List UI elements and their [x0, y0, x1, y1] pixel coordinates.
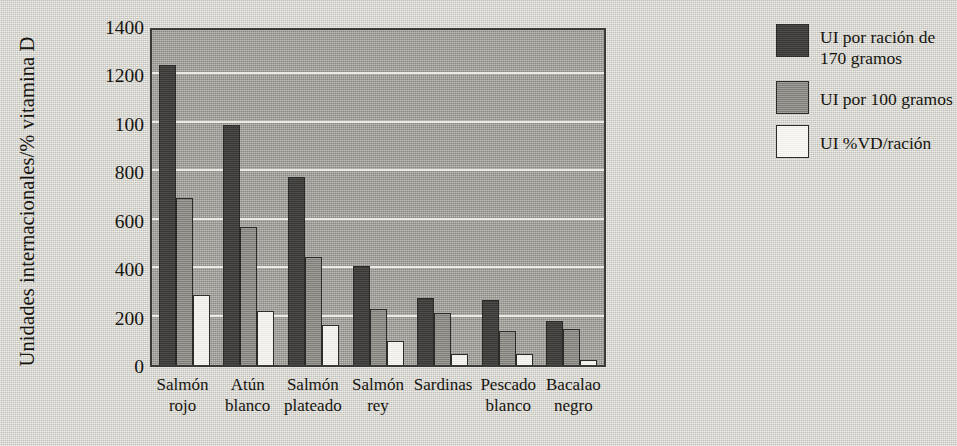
bar	[546, 321, 563, 365]
y-tick-label: 100	[48, 115, 144, 135]
vitamin-d-bar-chart: Unidades internacionales/% vitamina D 14…	[0, 0, 957, 446]
bar	[159, 65, 176, 365]
bar	[563, 329, 580, 365]
bar-group	[410, 30, 475, 365]
bar-group	[217, 30, 282, 365]
legend-swatch	[776, 24, 809, 57]
bar	[417, 298, 434, 365]
x-category-label-line1: Atún	[231, 375, 265, 394]
legend-label-line2: 170 gramos	[820, 48, 935, 69]
legend-label: UI %VD/ración	[820, 125, 931, 154]
x-category-label: Salmónplateado	[280, 374, 345, 417]
x-category-label-line2: blanco	[476, 395, 541, 416]
bar	[451, 354, 468, 365]
legend-label-line1: UI por ración de	[820, 27, 935, 48]
bar-group	[346, 30, 411, 365]
x-category-label-line1: Pescado	[480, 375, 536, 394]
bar	[288, 177, 305, 365]
y-tick-label: 1400	[48, 18, 144, 38]
x-category-label-line1: Sardinas	[414, 375, 473, 394]
bar	[305, 257, 322, 365]
bar	[499, 331, 516, 365]
legend-item: UI por ración de170 gramos	[776, 24, 954, 70]
x-category-label: Sardinas	[411, 374, 476, 417]
x-category-label-line2: negro	[541, 395, 606, 416]
bar	[580, 360, 597, 365]
x-category-label-line1: Salmón	[157, 375, 209, 394]
x-axis-category-labels: SalmónrojoAtúnblancoSalmónplateadoSalmón…	[150, 374, 606, 417]
plot-area	[150, 28, 606, 367]
bar-group	[152, 30, 217, 365]
bar	[257, 311, 274, 365]
y-tick-label: 1200	[48, 67, 144, 87]
x-category-label: Bacalaonegro	[541, 374, 606, 417]
bar	[193, 295, 210, 365]
x-category-label-line2: blanco	[215, 395, 280, 416]
bar	[223, 125, 240, 365]
x-category-label: Salmónrey	[345, 374, 410, 417]
x-category-label-line1: Bacalao	[546, 375, 601, 394]
legend-item: UI por 100 gramos	[776, 81, 954, 114]
x-category-label-line1: Salmón	[352, 375, 404, 394]
x-category-label-line2: rojo	[150, 395, 215, 416]
legend-swatch	[776, 81, 809, 114]
legend-label: UI por ración de170 gramos	[820, 24, 935, 70]
legend-label-line1: UI %VD/ración	[820, 133, 931, 154]
bar	[353, 266, 370, 365]
x-category-label-line2: rey	[345, 395, 410, 416]
y-axis-title: Unidades internacionales/% vitamina D	[16, 16, 39, 388]
bar	[240, 227, 257, 365]
y-tick-label: 0	[48, 357, 144, 377]
x-category-label: Pescadoblanco	[476, 374, 541, 417]
x-category-label-line2: plateado	[280, 395, 345, 416]
bar	[322, 325, 339, 365]
bar-groups	[152, 30, 604, 365]
y-axis-tick-labels: 140012001008006004002000	[48, 28, 144, 367]
bar	[176, 198, 193, 365]
bar	[434, 313, 451, 365]
bar-group	[281, 30, 346, 365]
legend-swatch	[776, 125, 809, 158]
chart-legend: UI por ración de170 gramosUI por 100 gra…	[776, 24, 954, 169]
y-tick-label: 400	[48, 260, 144, 280]
bar-group	[539, 30, 604, 365]
bar	[370, 309, 387, 365]
legend-label-line1: UI por 100 gramos	[820, 89, 953, 110]
bar-group	[475, 30, 540, 365]
x-category-label: Salmónrojo	[150, 374, 215, 417]
y-tick-label: 800	[48, 164, 144, 184]
x-category-label-line1: Salmón	[287, 375, 339, 394]
bar	[387, 341, 404, 365]
legend-item: UI %VD/ración	[776, 125, 954, 158]
x-category-label: Atúnblanco	[215, 374, 280, 417]
legend-label: UI por 100 gramos	[820, 81, 953, 110]
bar	[482, 300, 499, 365]
y-tick-label: 200	[48, 309, 144, 329]
y-tick-label: 600	[48, 212, 144, 232]
bar	[516, 354, 533, 365]
